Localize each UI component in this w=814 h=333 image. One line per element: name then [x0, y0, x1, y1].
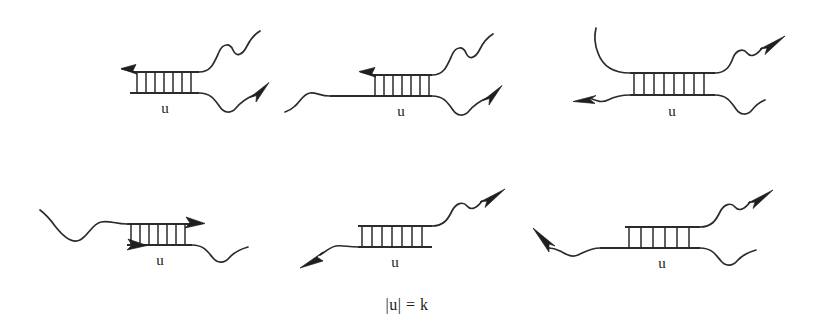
panel-1-arm-bottom-right	[199, 93, 254, 112]
panel-2-rungs	[375, 75, 429, 96]
panel-6-arrowhead-top-right	[748, 190, 773, 209]
panel-4-arm-top-left	[40, 210, 127, 241]
panel-6-duplex-label: u	[658, 255, 666, 271]
panel-2-arm-bottom-left	[285, 93, 330, 112]
panel-1-arrowhead-top-left	[121, 64, 137, 74]
panel-5-arrowhead-bottom-left	[300, 252, 323, 268]
panel-5-arrowhead-top-right	[480, 189, 505, 208]
panel-2-arm-bottom-right	[432, 96, 487, 115]
panel-1-duplex-label: u	[161, 100, 169, 116]
panel-4-arm-bottom-right	[192, 245, 248, 262]
duplex-motif-figure: u u	[0, 0, 814, 333]
panel-3-rungs	[634, 73, 704, 95]
panel-3-arm-top-right	[715, 48, 762, 73]
panel-4-arrowhead-top-right	[185, 217, 205, 228]
panel-2-arrowhead-bottom-right	[483, 86, 502, 106]
panel-1: u	[121, 31, 269, 116]
panel-2-duplex-label: u	[397, 103, 405, 119]
panel-1-rungs	[137, 72, 191, 93]
panel-5-arm-top-right	[432, 201, 482, 226]
panel-6-rungs	[629, 227, 689, 248]
figure-caption: |u| = k	[0, 296, 814, 314]
panel-4-rungs	[131, 224, 185, 245]
panel-2: u	[285, 34, 502, 119]
panel-5: u	[300, 189, 505, 270]
panel-4: u	[40, 210, 248, 268]
figure-root: u u	[0, 0, 814, 333]
panel-6-arm-top-right	[700, 202, 750, 227]
panel-3: u	[573, 28, 785, 119]
panel-5-arm-bottom-left	[320, 246, 358, 255]
panel-4-duplex-label: u	[156, 252, 164, 268]
panel-5-rungs	[362, 226, 422, 247]
panel-3-arm-top-left	[595, 28, 630, 73]
panel-5-duplex-label: u	[391, 254, 399, 270]
panel-1-arm-top-right	[199, 31, 260, 72]
panel-3-arm-bottom-left	[592, 95, 630, 102]
panel-6-arm-bottom-left	[549, 248, 600, 256]
panel-1-arrowhead-bottom-right	[250, 83, 269, 103]
panel-3-arm-bottom-right	[715, 95, 765, 114]
panel-6: u	[533, 190, 773, 271]
panel-3-arrowhead-top-right	[760, 36, 785, 55]
panel-2-arm-top-right	[432, 34, 493, 75]
panel-3-duplex-label: u	[668, 103, 676, 119]
panel-6-arm-bottom-right	[700, 248, 756, 265]
panel-2-arrowhead-top-left	[359, 67, 376, 77]
